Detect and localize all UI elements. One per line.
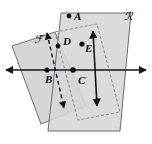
point-e-dot (79, 41, 84, 46)
point-c-label: C (78, 74, 86, 86)
plane-r-label: ℛ (124, 10, 134, 22)
point-a-label: A (73, 10, 81, 22)
figure-canvas: A B C D E ℱ ℛ (0, 0, 152, 144)
point-d-dot (56, 44, 61, 49)
point-a-dot (67, 14, 72, 19)
point-b-label: B (44, 73, 52, 85)
point-c-dot (70, 67, 76, 73)
point-e-label: E (84, 42, 92, 54)
point-d-label: D (62, 35, 71, 47)
geometry-figure: A B C D E ℱ ℛ (0, 0, 152, 144)
point-b-dot (44, 67, 49, 72)
